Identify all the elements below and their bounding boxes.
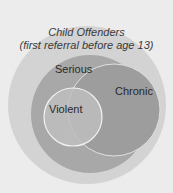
outer-label-line2: (first referral before age 13): [0, 39, 173, 52]
violent-label: Violent: [49, 103, 82, 115]
chronic-label: Chronic: [115, 85, 153, 97]
outer-label-line1: Child Offenders: [0, 26, 173, 39]
serious-label: Serious: [55, 63, 92, 75]
violent-circle: [44, 88, 102, 146]
